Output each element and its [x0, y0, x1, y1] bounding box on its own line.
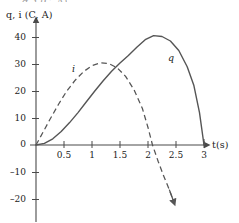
x-axis-label: t(s) [212, 139, 229, 150]
y-axis-label: q, i (C, A) [6, 9, 53, 20]
chart-plot-area [0, 0, 239, 223]
y-tick-label-40: 40 [2, 32, 26, 42]
x-tick-label-2-5: 2.5 [162, 150, 190, 160]
curve-i-arrowhead [169, 190, 173, 201]
y-tick-label-30: 30 [2, 59, 26, 69]
y-tick-label-minus-20: –20 [0, 194, 26, 204]
y-tick-label-0: 0 [2, 139, 26, 149]
y-tick-label-10: 10 [2, 113, 26, 123]
x-tick-label-1-5: 1.5 [106, 150, 134, 160]
y-tick-label-minus-10: –10 [0, 167, 26, 177]
chart-figure: q, i (C, A) [0, 0, 239, 223]
x-tick-label-0-5: 0.5 [50, 150, 78, 160]
curve-i-path [36, 63, 173, 200]
curve-label-q: q [168, 52, 174, 63]
curve-q-path [36, 36, 204, 145]
x-tick-label-2: 2 [134, 150, 162, 160]
x-tick-label-1: 1 [78, 150, 106, 160]
curve-label-i: i [72, 63, 75, 74]
y-tick-label-20: 20 [2, 86, 26, 96]
x-tick-label-3: 3 [190, 150, 218, 160]
